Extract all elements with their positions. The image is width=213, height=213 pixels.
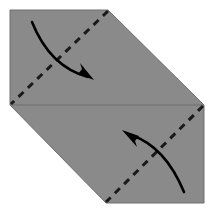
origami-diagram-container bbox=[0, 0, 213, 213]
origami-diagram-canvas bbox=[0, 0, 213, 213]
